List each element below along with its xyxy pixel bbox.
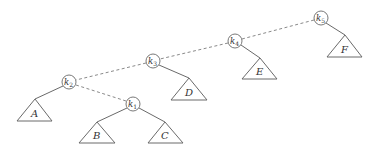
edge-k1-C [139, 108, 165, 122]
subtree-B: B [79, 122, 115, 143]
subtree-label-D: D [184, 87, 193, 98]
edge-k2-A [35, 86, 63, 99]
subtree-label-E: E [255, 66, 264, 77]
solid-edges [35, 23, 345, 122]
subtree-label-A: A [30, 108, 38, 119]
subtree-C: C [148, 122, 183, 143]
edge-k4-E [241, 45, 260, 58]
edge-k3-k2 [76, 63, 146, 80]
subtree-F: F [327, 35, 362, 57]
subtree-D: D [171, 78, 207, 100]
subtree-label-B: B [92, 130, 100, 141]
subtree-label-F: F [340, 44, 349, 55]
node-k5: k5 [314, 11, 328, 25]
edge-k5-F [326, 23, 345, 35]
tree-diagram: A B C D E F k5 k4 k3 k2 k1 [0, 0, 375, 155]
edge-k5-k4 [242, 20, 314, 39]
node-k3: k3 [146, 54, 160, 68]
subtree-A: A [17, 99, 52, 121]
edge-k3-D [159, 65, 189, 78]
node-k4: k4 [228, 34, 242, 48]
node-k2: k2 [62, 75, 76, 89]
subtree-label-C: C [161, 130, 169, 141]
subtree-E: E [242, 58, 277, 79]
edge-k2-k1 [76, 85, 126, 101]
node-k1: k1 [126, 97, 140, 111]
edge-k1-B [97, 108, 127, 122]
edge-k4-k3 [160, 43, 228, 59]
